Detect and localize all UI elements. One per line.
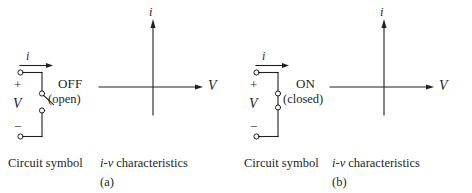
axis-i-arrowhead-b: [382, 19, 387, 28]
polarity-plus-a: +: [14, 78, 21, 91]
terminal-top-b: [254, 70, 259, 75]
plot-caption-a: i-v characteristics: [100, 157, 188, 170]
current-arrow-a: [20, 63, 53, 68]
polarity-minus-b: −: [250, 120, 257, 133]
plot-caption-b: i-v characteristics: [332, 157, 420, 170]
switch-contact-lower-b: [275, 105, 280, 110]
switch-state-label-b: ON: [296, 77, 315, 90]
circuit-voltage-label-b: V: [249, 97, 258, 111]
panel-sublabel-b: (b): [332, 176, 347, 189]
circuit-current-label-a: i: [26, 50, 29, 62]
panel-sublabel-a: (a): [100, 176, 114, 189]
switch-contact-lower-a: [39, 108, 44, 113]
switch-state-detail-b: (closed): [283, 93, 323, 106]
terminal-bottom-b: [254, 134, 259, 139]
axis-i-arrowhead-a: [151, 19, 156, 28]
axis-label-i-a: i: [149, 6, 152, 19]
plot-caption-a-italic: i-v: [100, 156, 113, 170]
circuit-current-label-b: i: [262, 50, 265, 62]
polarity-minus-a: −: [14, 120, 21, 133]
plot-caption-b-rest: characteristics: [345, 156, 420, 170]
plot-caption-b-italic: i-v: [332, 156, 345, 170]
circuit-caption-a: Circuit symbol: [8, 157, 83, 170]
figure-root: i + V − OFF (open) i V Circuit symbol i-…: [0, 0, 472, 193]
figure-panel-b: i + V − ON (closed) i V Circuit symbol i…: [236, 0, 472, 193]
circuit-caption-b: Circuit symbol: [244, 157, 319, 170]
switch-state-label-a: OFF: [58, 77, 82, 90]
current-arrow-b: [256, 63, 289, 68]
terminal-bottom-a: [18, 134, 23, 139]
switch-contact-upper-b: [275, 91, 280, 96]
terminal-top-a: [18, 70, 23, 75]
circuit-voltage-label-a: V: [13, 97, 22, 111]
switch-state-detail-a: (open): [48, 93, 81, 106]
figure-panel-a: i + V − OFF (open) i V Circuit symbol i-…: [0, 0, 236, 193]
axis-label-v-a: V: [208, 79, 217, 93]
polarity-plus-b: +: [250, 78, 257, 91]
iv-axes-b: [330, 19, 434, 115]
axis-label-i-b: i: [380, 6, 383, 19]
axis-v-arrowhead-b: [426, 85, 434, 90]
axis-label-v-b: V: [439, 79, 448, 93]
iv-axes-a: [99, 19, 203, 115]
axis-v-arrowhead-a: [195, 85, 203, 90]
plot-caption-a-rest: characteristics: [113, 156, 188, 170]
